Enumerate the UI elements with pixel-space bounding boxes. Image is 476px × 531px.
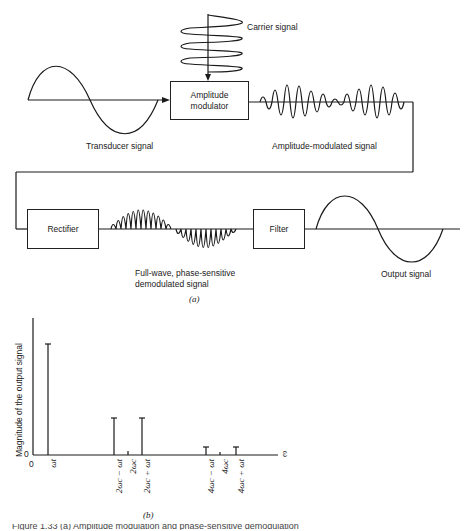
amplitude-modulator-label-1: Amplitude [191, 90, 229, 101]
tick-4wc-minus-wt: 4ωc − ωt [206, 459, 216, 493]
am-signal-label: Amplitude-modulated signal [272, 141, 377, 151]
figure-caption: Figure 1.33 (a) Amplitude modulation and… [12, 524, 302, 530]
rectifier-block: Rectifier [27, 209, 99, 249]
tick-4wc: 4ωc [220, 459, 230, 474]
carrier-coil [181, 15, 242, 72]
figure-b-label: (b) [143, 510, 154, 520]
amplitude-modulator-block: Amplitude modulator [170, 81, 249, 120]
amplitude-modulator-label-2: modulator [191, 101, 229, 112]
block-diagram-graphics [0, 0, 476, 531]
x-origin-label: 0 [29, 459, 34, 469]
demod-signal-label-2: demodulated signal [135, 279, 209, 289]
figure-caption-text: Figure 1.33 (a) Amplitude modulation and… [12, 524, 299, 530]
arrow-to-modulator [162, 97, 170, 103]
tick-omega-t: ωt [48, 459, 58, 468]
filter-label: Filter [270, 224, 289, 235]
tick-2wc: 2ωc [128, 459, 138, 474]
rectifier-label: Rectifier [47, 224, 78, 235]
y-axis-label: Magnitude of the output signal [14, 343, 24, 457]
carrier-signal-label: Carrier signal [247, 22, 298, 32]
output-signal-label: Output signal [381, 269, 431, 279]
y-origin-label: 0 [24, 449, 29, 459]
filter-block: Filter [253, 209, 305, 249]
arrow-carrier [205, 74, 211, 81]
tick-2wc-minus-wt: 2ωc − ωt [114, 459, 124, 493]
x-axis-label: ω [281, 451, 291, 457]
tick-2wc-plus-wt: 2ωc + ωt [142, 459, 152, 493]
transducer-signal-label: Transducer signal [86, 141, 153, 151]
demod-signal-label-1: Full-wave, phase-sensitive [135, 268, 235, 278]
figure-a-label: (a) [189, 294, 200, 304]
tick-4wc-plus-wt: 4ωc + ωt [236, 459, 246, 493]
